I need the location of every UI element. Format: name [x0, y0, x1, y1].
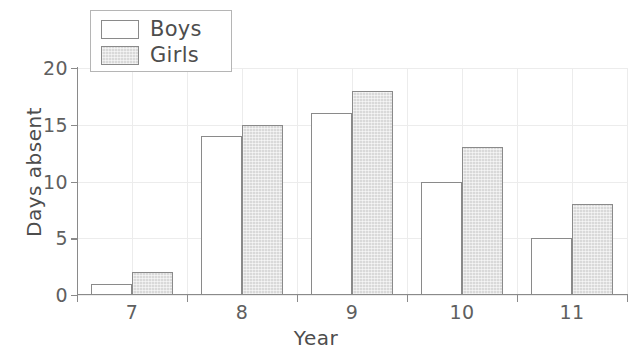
legend-label-girls: Girls	[150, 45, 199, 66]
gridline-x	[627, 68, 628, 295]
gridline-x	[407, 68, 408, 295]
bar-boys-year-10	[421, 182, 462, 296]
y-tick-mark-20	[71, 68, 78, 69]
x-axis-line	[77, 294, 628, 295]
x-tick-label-8: 8	[187, 301, 297, 323]
y-axis-title: Days absent	[22, 57, 46, 287]
bar-girls-year-8	[242, 125, 283, 295]
bar-boys-year-9	[311, 113, 352, 295]
bar-chart: 05101520 7891011 Days absent Year Boys G…	[0, 0, 632, 358]
x-tick-label-10: 10	[407, 301, 517, 323]
bar-girls-year-10	[462, 147, 503, 295]
y-tick-mark-5	[71, 238, 78, 239]
legend-swatch-boys-icon	[101, 20, 139, 39]
y-tick-mark-10	[71, 182, 78, 183]
bar-boys-year-11	[531, 238, 572, 295]
gridline-x	[187, 68, 188, 295]
legend-swatch-girls-icon	[101, 46, 139, 65]
y-tick-mark-15	[71, 125, 78, 126]
bar-girls-year-9	[352, 91, 393, 295]
x-tick-label-9: 9	[297, 301, 407, 323]
gridline-x	[517, 68, 518, 295]
legend: Boys Girls	[90, 10, 232, 72]
plot-area	[77, 68, 627, 295]
y-tick-label-0: 0	[24, 284, 68, 306]
gridline-x	[297, 68, 298, 295]
bar-girls-year-7	[132, 272, 173, 295]
gridline-x	[132, 68, 133, 295]
legend-item-boys: Boys	[101, 16, 231, 42]
bar-boys-year-8	[201, 136, 242, 295]
x-axis-title: Year	[0, 326, 632, 350]
legend-item-girls: Girls	[101, 42, 231, 68]
x-tick-label-7: 7	[77, 301, 187, 323]
legend-label-boys: Boys	[150, 19, 202, 40]
bar-girls-year-11	[572, 204, 613, 295]
x-tick-mark	[627, 295, 628, 302]
x-tick-label-11: 11	[517, 301, 627, 323]
